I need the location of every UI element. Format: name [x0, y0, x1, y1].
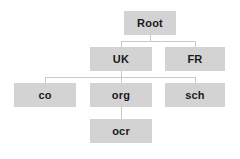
- tree-node-label-ocr: ocr: [112, 126, 130, 137]
- tree-node-label-co: co: [38, 90, 51, 101]
- connector-root-bus: [121, 41, 195, 42]
- tree-node-org[interactable]: org: [90, 83, 152, 107]
- tree-node-label-uk: UK: [113, 54, 129, 65]
- tree-node-ocr[interactable]: ocr: [90, 119, 152, 143]
- tree-node-uk[interactable]: UK: [90, 47, 152, 71]
- hierarchy-tree-diagram: RootUKFRcoorgschocr: [0, 0, 240, 159]
- connector-children-bus: [45, 77, 195, 78]
- tree-node-label-fr: FR: [187, 54, 202, 65]
- tree-node-sch[interactable]: sch: [165, 83, 225, 107]
- tree-node-label-org: org: [112, 90, 130, 101]
- tree-node-root[interactable]: Root: [124, 11, 176, 35]
- connector-ocr-stem: [121, 107, 122, 119]
- tree-node-fr[interactable]: FR: [165, 47, 225, 71]
- tree-node-co[interactable]: co: [14, 83, 76, 107]
- tree-node-label-sch: sch: [185, 90, 205, 101]
- tree-node-label-root: Root: [137, 18, 163, 29]
